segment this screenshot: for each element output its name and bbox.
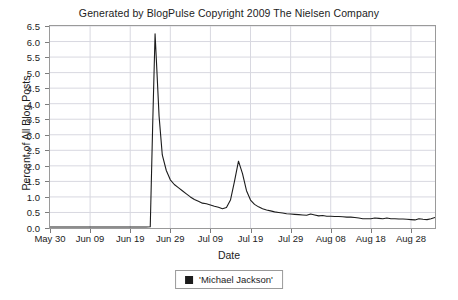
y-tick-mark [45, 212, 49, 213]
chart-container: Generated by BlogPulse Copyright 2009 Th… [0, 0, 458, 300]
y-tick-mark [45, 119, 49, 120]
x-tick-label: Aug 18 [356, 233, 386, 244]
x-tick-mark [371, 229, 372, 233]
chart-title: Generated by BlogPulse Copyright 2009 Th… [0, 7, 458, 19]
y-tick-mark [45, 181, 49, 182]
x-tick-label: Jul 09 [198, 233, 223, 244]
x-tick-mark [90, 229, 91, 233]
y-tick-mark [45, 150, 49, 151]
y-tick-mark [45, 104, 49, 105]
y-tick-mark [45, 26, 49, 27]
y-tick-mark [45, 166, 49, 167]
x-tick-mark [210, 229, 211, 233]
x-axis-title: Date [0, 249, 458, 261]
x-tick-mark [291, 229, 292, 233]
y-axis-title: Percent of All Blog Posts [20, 43, 32, 223]
y-tick-mark [45, 135, 49, 136]
y-tick-label: 6.5 [27, 21, 40, 32]
x-tick-mark [411, 229, 412, 233]
x-tick-mark [331, 229, 332, 233]
x-axis: May 30Jun 09Jun 19Jun 29Jul 09Jul 19Jul … [0, 233, 458, 247]
y-tick-mark [45, 88, 49, 89]
x-tick-mark [170, 229, 171, 233]
y-tick-mark [45, 197, 49, 198]
x-tick-label: May 30 [34, 233, 65, 244]
y-tick-label: 0.0 [27, 223, 40, 234]
y-tick-mark [45, 73, 49, 74]
x-tick-label: Jul 19 [238, 233, 263, 244]
x-tick-label: Aug 28 [396, 233, 426, 244]
legend[interactable]: 'Michael Jackson' [175, 270, 283, 289]
x-tick-mark [130, 229, 131, 233]
data-series-line [50, 26, 435, 228]
plot-area [49, 25, 436, 229]
x-tick-label: Aug 08 [316, 233, 346, 244]
x-tick-label: Jul 29 [278, 233, 303, 244]
y-tick-mark [45, 42, 49, 43]
x-tick-label: Jun 29 [156, 233, 185, 244]
y-tick-mark [45, 228, 49, 229]
x-tick-mark [50, 229, 51, 233]
x-tick-mark [251, 229, 252, 233]
x-tick-label: Jun 19 [116, 233, 145, 244]
x-tick-label: Jun 09 [76, 233, 105, 244]
legend-swatch-icon [185, 276, 193, 284]
legend-label: 'Michael Jackson' [199, 274, 273, 285]
y-tick-mark [45, 57, 49, 58]
